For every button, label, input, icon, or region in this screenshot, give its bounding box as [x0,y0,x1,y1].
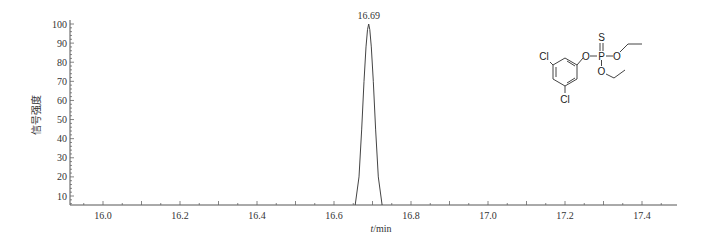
y-ticks: 102030405060708090100 [52,19,74,204]
x-tick-label: 17.0 [479,210,497,221]
atom-o-right: O [613,51,621,62]
x-tick-label: 16.6 [325,210,343,221]
atom-cl-top: Cl [539,51,548,62]
x-tick-label: 16.0 [94,210,112,221]
x-tick-label: 16.4 [248,210,266,221]
atom-s: S [598,32,605,43]
y-tick-label: 80 [57,57,67,68]
y-tick-label: 90 [57,38,67,49]
atom-o-aryl: O [582,51,590,62]
atom-p: P [598,51,605,62]
y-tick-label: 60 [57,95,67,106]
y-tick-label: 10 [57,191,67,202]
y-tick-label: 70 [57,76,67,87]
y-tick-label: 50 [57,114,67,125]
y-tick-label: 40 [57,133,67,144]
chromatogram-chart: 102030405060708090100 16.016.216.416.616… [0,0,708,241]
benzene-ring [553,58,577,86]
x-axis-title: t/min [370,223,391,234]
y-tick-label: 30 [57,152,67,163]
chemical-structure-inset [548,43,642,93]
x-tick-label: 17.4 [633,210,651,221]
x-tick-label: 16.8 [402,210,420,221]
y-tick-label: 100 [52,19,67,30]
structure-atom-labels: Cl Cl O P S O O [537,32,621,105]
x-ticks: 16.016.216.416.616.817.017.217.4 [84,201,662,221]
x-tick-label: 16.2 [171,210,189,221]
atom-cl-bottom: Cl [560,94,569,105]
y-axis-title: 信号强度 [30,95,42,135]
atom-o-down: O [598,66,606,77]
bond-ethyl-1a [620,44,628,52]
x-axis-title-unit: /min [373,223,391,234]
x-tick-label: 17.2 [556,210,574,221]
bond-ethyl-2b [614,70,625,78]
axes: 102030405060708090100 16.016.216.416.616… [52,19,677,222]
peak-retention-label: 16.69 [357,10,380,21]
bond-ethyl-2a [606,74,614,78]
y-tick-label: 20 [57,171,67,182]
chromatogram-trace [355,24,382,205]
